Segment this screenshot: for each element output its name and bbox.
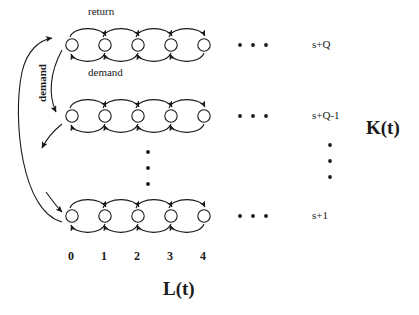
- column-label-2: 2: [134, 250, 140, 262]
- row-1-return-arrows: [70, 29, 205, 37]
- row-label-s-plus-q: s+Q: [312, 39, 330, 50]
- column-label-3: 3: [167, 250, 173, 262]
- row-2-return-arrows: [70, 100, 205, 108]
- row-label-s-plus-q-minus-1: s+Q-1: [312, 110, 340, 121]
- vertical-ellipsis-center: [146, 150, 150, 186]
- diagram-canvas: return demand demand s+Q s+Q-1 s+1 0 1 2…: [0, 0, 419, 315]
- row-3-demand-arrows: [71, 224, 204, 232]
- column-label-1: 1: [101, 250, 107, 262]
- column-label-4: 4: [200, 250, 206, 262]
- row-states-1: [66, 39, 210, 51]
- axis-label-horizontal: L(t): [163, 279, 195, 298]
- row-states-3: [66, 210, 210, 222]
- flow-label-demand-horizontal: demand: [88, 67, 123, 78]
- diagram-svg: [0, 0, 419, 315]
- vertical-ellipsis-right: [328, 143, 332, 179]
- flow-label-demand-vertical: demand: [36, 64, 48, 102]
- row-2-ellipsis: [238, 114, 268, 118]
- column-label-0: 0: [68, 250, 74, 262]
- row-1-ellipsis: [238, 43, 268, 47]
- row-2-demand-arrows: [71, 124, 204, 132]
- row-label-s-plus-1: s+1: [312, 210, 328, 221]
- row-3-return-arrows: [70, 200, 205, 208]
- demand-arrow-row1-to-row2: [51, 50, 62, 112]
- axis-label-vertical: K(t): [366, 118, 400, 137]
- flow-label-return: return: [88, 6, 114, 17]
- row-1-demand-arrows: [71, 53, 204, 61]
- demand-arrow-row2-down: [42, 124, 62, 148]
- row-states-2: [66, 110, 210, 122]
- row-3-ellipsis: [238, 214, 268, 218]
- demand-arrow-into-row3: [46, 192, 62, 212]
